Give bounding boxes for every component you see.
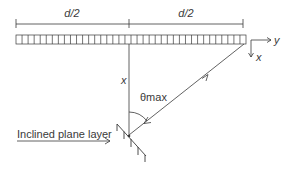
reflection-point — [128, 135, 131, 138]
depth-label: x — [120, 74, 127, 86]
transducer-array — [16, 35, 246, 44]
axis-x-label: x — [255, 51, 262, 63]
array-cells — [22, 35, 240, 44]
array-geometry-diagram: d/2 d/2 y x x θmax Inclined plane layer — [0, 0, 294, 169]
axis-y-label: y — [273, 34, 281, 46]
dimension-left-label: d/2 — [64, 7, 79, 19]
dimension-line — [16, 19, 243, 28]
angle-arc — [129, 112, 147, 121]
pointer-label: Inclined plane layer — [17, 128, 112, 140]
ray-path — [129, 44, 244, 135]
angle-label: θmax — [140, 91, 167, 103]
dimension-right-label: d/2 — [178, 7, 193, 19]
inclined-plane — [117, 124, 146, 162]
